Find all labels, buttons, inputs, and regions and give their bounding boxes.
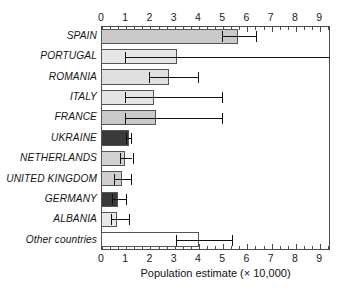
error-bar-line — [112, 199, 127, 200]
axis-tick-label: 8 — [285, 252, 305, 264]
category-label: ALBANIA — [0, 209, 97, 229]
axis-tick-label: 3 — [164, 11, 184, 23]
category-label: Other countries — [0, 230, 97, 250]
error-bar-cap-low — [111, 214, 112, 225]
x-axis-title: Population estimate (× 10,000) — [101, 267, 330, 279]
bar-row — [101, 169, 330, 189]
category-label: SPAIN — [0, 26, 97, 46]
axis-tick-label: 7 — [261, 252, 281, 264]
bar-row — [101, 107, 330, 127]
error-bar-line — [125, 97, 222, 98]
axis-tick-label: 6 — [236, 252, 256, 264]
bar-series — [101, 26, 330, 250]
error-bar-line — [149, 77, 197, 78]
axis-tick-label: 0 — [91, 252, 111, 264]
error-bar-cap-high — [256, 31, 257, 42]
error-bar-cap-high — [133, 153, 134, 164]
category-label: GERMANY — [0, 189, 97, 209]
axis-tick-label: 5 — [212, 252, 232, 264]
error-bar-line — [176, 240, 232, 241]
error-bar-cap-low — [176, 235, 177, 246]
axis-tick-label: 9 — [309, 252, 329, 264]
error-bar-cap-low — [222, 31, 223, 42]
error-bar-line — [111, 219, 129, 220]
bar-row — [101, 189, 330, 209]
error-bar-cap-low — [114, 174, 115, 185]
bar-row — [101, 209, 330, 229]
axis-tick-label: 1 — [115, 11, 135, 23]
bar — [101, 130, 129, 145]
category-label: PORTUGAL — [0, 46, 97, 66]
error-bar-line — [120, 158, 132, 159]
bar-row — [101, 230, 330, 250]
axis-tick-label: 2 — [139, 252, 159, 264]
error-bar-cap-low — [112, 194, 113, 205]
axis-tick-label: 5 — [212, 11, 232, 23]
axis-tick-label: 9 — [309, 11, 329, 23]
error-bar-cap-high — [131, 174, 132, 185]
category-axis-labels: SPAINPORTUGALROMANIAITALYFRANCEUKRAINENE… — [0, 26, 97, 250]
axis-tick-label: 7 — [261, 11, 281, 23]
error-bar-cap-low — [126, 133, 127, 144]
error-bar-cap-low — [149, 72, 150, 83]
bar-row — [101, 128, 330, 148]
category-label: UNITED KINGDOM — [0, 169, 97, 189]
population-estimate-bar-chart: 0123456789 0123456789 SPAINPORTUGALROMAN… — [0, 0, 346, 288]
axis-tick-label: 8 — [285, 11, 305, 23]
axis-tick-label: 2 — [139, 11, 159, 23]
error-bar-cap-low — [125, 52, 126, 63]
error-bar-cap-high — [126, 194, 127, 205]
axis-tick-label: 4 — [188, 11, 208, 23]
axis-tick-label: 0 — [91, 11, 111, 23]
error-bar-cap-high — [198, 72, 199, 83]
error-bar-line — [222, 36, 256, 37]
error-bar-cap-high — [129, 214, 130, 225]
bar-row — [101, 148, 330, 168]
error-bar-line — [125, 118, 222, 119]
category-label: UKRAINE — [0, 128, 97, 148]
error-bar-cap-high — [222, 113, 223, 124]
error-bar-cap-low — [125, 92, 126, 103]
bar-row — [101, 26, 330, 46]
error-bar-cap-high — [232, 235, 233, 246]
bar-row — [101, 67, 330, 87]
error-bar-cap-low — [125, 113, 126, 124]
axis-tick-label: 3 — [164, 252, 184, 264]
error-bar-line — [125, 57, 330, 58]
error-bar-cap-high — [131, 133, 132, 144]
category-label: ROMANIA — [0, 67, 97, 87]
error-bar-cap-high — [222, 92, 223, 103]
bar-row — [101, 46, 330, 66]
bar — [101, 29, 238, 44]
category-label: NETHERLANDS — [0, 148, 97, 168]
category-label: ITALY — [0, 87, 97, 107]
error-bar-cap-low — [120, 153, 121, 164]
category-label: FRANCE — [0, 107, 97, 127]
error-bar-line — [114, 179, 131, 180]
axis-tick-label: 6 — [236, 11, 256, 23]
bar-row — [101, 87, 330, 107]
axis-tick-label: 1 — [115, 252, 135, 264]
axis-tick-label: 4 — [188, 252, 208, 264]
